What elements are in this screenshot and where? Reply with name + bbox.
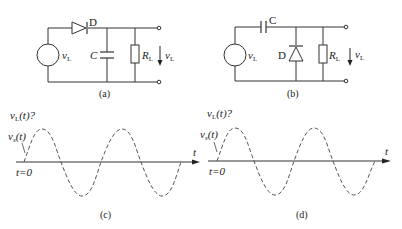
caption-a: (a) (99, 88, 110, 100)
input-label: vs(t) (8, 130, 26, 144)
axis-arrow-icon (382, 159, 391, 164)
capacitor-label: C (269, 14, 276, 26)
voltage-arrow-icon (348, 48, 353, 66)
plot-c: t vL(t)? vs(t) t=0 (c) (8, 109, 200, 221)
ac-source-icon (37, 44, 59, 66)
diode-icon (72, 22, 87, 34)
output-label: vL (165, 49, 174, 63)
source-label: vL (62, 49, 71, 63)
source-label: vL (248, 49, 257, 63)
t0-label: t=0 (209, 165, 225, 177)
capacitor-label: C (90, 49, 98, 61)
resistor-label: RL (328, 49, 340, 63)
capacitor-icon (100, 52, 114, 58)
caption-b: (b) (287, 88, 299, 100)
circuit-a: vL D C RL vL (a) (37, 16, 174, 100)
caption-d: (d) (296, 209, 308, 221)
output-terminal-bottom (157, 80, 161, 84)
output-terminal-top (344, 25, 348, 29)
ac-source-icon (224, 44, 246, 66)
output-terminal-top (157, 26, 161, 30)
diode-label: D (89, 16, 97, 28)
output-label: vL(t)? (207, 107, 233, 121)
output-label: vL (355, 48, 364, 62)
circuit-b: vL C D RL vL (b) (224, 14, 364, 100)
figure: vL D C RL vL (a) vL (0, 0, 402, 229)
output-terminal-bottom (344, 79, 348, 83)
plot-d: t vL(t)? vs(t) t=0 (d) (200, 107, 391, 221)
resistor-label: RL (141, 49, 153, 63)
axis-label: t (385, 145, 389, 157)
t0-label: t=0 (16, 166, 32, 178)
capacitor-icon (261, 21, 266, 33)
diode-label: D (278, 49, 286, 61)
input-label-leader (22, 143, 25, 153)
caption-c: (c) (100, 209, 111, 221)
axis-arrow-icon (192, 160, 200, 165)
diode-icon (289, 46, 303, 61)
input-label: vs(t) (200, 128, 218, 142)
output-label: vL(t)? (10, 109, 36, 123)
resistor-icon (319, 45, 327, 63)
input-label-leader (214, 142, 217, 152)
resistor-icon (131, 45, 139, 63)
axis-label: t (193, 146, 197, 158)
voltage-arrow-icon (158, 46, 163, 66)
